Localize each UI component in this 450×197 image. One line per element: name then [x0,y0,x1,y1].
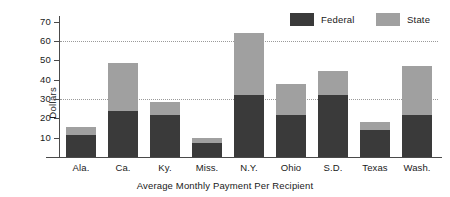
y-tick-label: 70 [40,17,51,27]
bar-segment-state [66,127,96,135]
bar-segment-federal [234,95,264,157]
bar-segment-state [276,84,306,116]
bar-segment-state [360,122,390,130]
bar-series-container [60,16,438,157]
bar-segment-federal [108,111,138,157]
x-tick-label: Ala. [60,163,102,173]
bar-segment-federal [360,130,390,157]
x-tick-label: N.Y. [228,163,270,173]
legend-swatch [376,13,400,26]
bar-group [192,138,222,157]
x-axis-line [46,157,442,158]
x-tick-label: Ky. [144,163,186,173]
bar-segment-federal [276,115,306,157]
bar-group [318,71,348,157]
bar-segment-federal [66,135,96,157]
bar-segment-state [108,63,138,110]
bar-segment-federal [318,95,348,157]
bar-segment-state [192,138,222,143]
y-tick-label: 40 [40,75,51,85]
bar-group [108,63,138,157]
bar-segment-federal [402,115,432,157]
x-tick-label: S.D. [312,163,354,173]
bar-group [402,66,432,157]
x-axis-title: Average Monthly Payment Per Recipient [0,180,450,191]
plot-area: Dollars 10203040506070 [60,16,438,157]
bar-segment-state [402,66,432,115]
bar-group [234,33,264,157]
y-tick-label: 10 [40,133,51,143]
bar-segment-state [150,102,180,116]
bar-group [66,127,96,157]
x-tick-label: Ca. [102,163,144,173]
bar-segment-state [318,71,348,95]
legend-label: Federal [321,14,355,25]
legend-label: State [407,14,430,25]
y-tick-label: 30 [40,94,51,104]
bar-group [276,84,306,157]
bar-segment-state [234,33,264,95]
bar-group [360,122,390,157]
bar-group [150,102,180,157]
y-tick-label: 20 [40,114,51,124]
y-tick-label: 50 [40,56,51,66]
x-tick-label: Wash. [396,163,438,173]
x-tick-label: Miss. [186,163,228,173]
bar-segment-federal [192,143,222,157]
x-tick-label: Texas [354,163,396,173]
y-tick-label: 60 [40,36,51,46]
x-tick-label: Ohio [270,163,312,173]
legend-swatch [290,13,314,26]
stacked-bar-chart: Dollars 10203040506070 Ala.Ca.Ky.Miss.N.… [0,0,450,197]
bar-segment-federal [150,115,180,157]
